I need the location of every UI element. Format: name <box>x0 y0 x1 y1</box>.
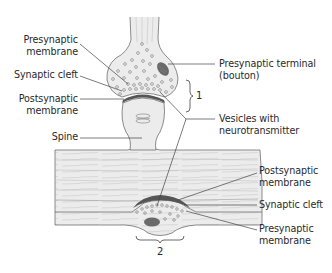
synapse-diagram: Presynaptic membrane Synaptic cleft Post… <box>0 0 332 273</box>
label-line: membrane <box>259 235 314 247</box>
label-line: Presynaptic terminal <box>219 58 316 70</box>
label-presynaptic-terminal: Presynaptic terminal (bouton) <box>219 58 316 81</box>
label-line: Presynaptic <box>23 34 78 46</box>
label-line: membrane <box>19 105 78 117</box>
label-line: membrane <box>23 46 78 58</box>
brace-2 <box>136 236 184 243</box>
label-line: Synaptic cleft <box>259 199 323 211</box>
label-postsynaptic-membrane-bottom: Postsynaptic membrane <box>259 165 318 188</box>
label-line: Synaptic cleft <box>14 69 78 81</box>
label-spine: Spine <box>52 131 78 143</box>
label-line: membrane <box>259 177 318 189</box>
label-line: Postsynaptic <box>259 165 318 177</box>
label-line: Presynaptic <box>259 223 314 235</box>
label-presynaptic-membrane-bottom: Presynaptic membrane <box>259 223 314 246</box>
brace-label-2: 2 <box>157 246 163 257</box>
label-postsynaptic-membrane-top: Postsynaptic membrane <box>19 93 78 116</box>
spine <box>122 98 165 150</box>
label-synaptic-cleft-bottom: Synaptic cleft <box>259 199 323 211</box>
label-synaptic-cleft-top: Synaptic cleft <box>14 69 78 81</box>
brace-label-1: 1 <box>196 90 202 101</box>
brace-1 <box>186 80 193 112</box>
label-line: Spine <box>52 131 78 143</box>
label-vesicles: Vesicles with neurotransmitter <box>219 113 299 136</box>
label-presynaptic-membrane-top: Presynaptic membrane <box>23 34 78 57</box>
presynaptic-bouton <box>107 17 178 97</box>
label-line: (bouton) <box>219 70 316 82</box>
label-line: neurotransmitter <box>219 125 299 137</box>
label-line: Postsynaptic <box>19 93 78 105</box>
label-line: Vesicles with <box>219 113 299 125</box>
mitochondrion-icon <box>144 218 160 227</box>
